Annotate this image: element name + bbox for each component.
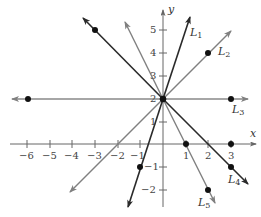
line-L2-lower: [70, 99, 163, 192]
point-3-0: [228, 141, 234, 147]
point-L5-2-neg2: [205, 187, 211, 193]
y-axis-label: y: [168, 4, 174, 15]
x-tick-label: −4: [64, 151, 79, 161]
point-L4-neg3-5: [92, 27, 98, 33]
point-L3-neg6-2: [25, 96, 31, 102]
point-L3-3-2: [228, 96, 234, 102]
common-point: [160, 96, 166, 102]
y-tick-label: 4: [150, 48, 156, 58]
point-L1-neg1-neg1: [137, 164, 143, 170]
x-tick-label: −5: [42, 151, 57, 161]
line-L5-upper: [125, 22, 163, 99]
x-tick-label: −6: [19, 151, 34, 161]
y-tick-label: −1: [144, 162, 159, 172]
line-label-L2: L2: [218, 46, 230, 59]
x-tick-label: −3: [87, 151, 102, 161]
coordinate-plane-diagram: y x −6 −5 −4 −3 −2 −1 1 2 3 −2 −1 1 2 3 …: [0, 0, 261, 217]
graph-canvas: [0, 0, 261, 217]
line-L1: [163, 17, 190, 99]
line-label-L1: L1: [190, 27, 202, 40]
x-axis-label: x: [250, 128, 256, 139]
x-tick-label: 2: [205, 151, 211, 161]
y-tick-label: −2: [141, 185, 156, 195]
point-L2-2-4: [205, 50, 211, 56]
y-tick-label: 2: [150, 94, 156, 104]
y-tick-label: 5: [150, 25, 156, 35]
y-tick-label: 3: [150, 71, 156, 81]
point-L4-3-neg1: [228, 164, 234, 170]
points: [25, 27, 234, 193]
line-label-L4: L4: [228, 174, 240, 187]
lines: [12, 17, 248, 207]
x-tick-label: −1: [130, 151, 145, 161]
line-label-L5: L5: [198, 197, 210, 210]
x-tick-label: −2: [110, 151, 125, 161]
y-tick-label: 1: [150, 117, 156, 127]
x-tick-label: 3: [228, 151, 234, 161]
x-tick-label: 1: [183, 151, 189, 161]
line-label-L3: L3: [232, 104, 244, 117]
point-L5-1-0: [183, 141, 189, 147]
line-L2: [163, 31, 231, 99]
